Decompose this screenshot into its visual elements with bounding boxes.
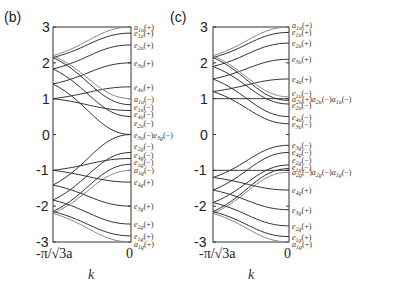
state-label: e2g(+) [134, 220, 154, 230]
panel-b-curves [53, 27, 131, 242]
band-curve-e4gminus [53, 159, 131, 171]
state-label: a1g(+) [134, 240, 154, 250]
state-label: e2u(−) [292, 101, 312, 111]
band-curve-e1uplus [213, 32, 289, 57]
band-curve-e2gplus [213, 203, 289, 226]
band-structure-figure: (b) 3210-1-2-3 a1u(+)e1u(+)e2u(+)e3u(+)e… [0, 0, 394, 289]
state-label: e4u(+) [292, 75, 312, 85]
panel-b-label: (b) [4, 9, 21, 25]
band-curve-e2uplus [53, 45, 131, 69]
band-curve-a1gplus [53, 213, 131, 242]
y-tick-label: 3 [200, 19, 208, 35]
band-curve-e3gminus [213, 145, 289, 177]
y-tick-label: -2 [194, 198, 207, 214]
state-label: e2u(+) [134, 41, 154, 51]
state-label: e3u(−) [292, 120, 312, 130]
band-curve-e3uplus [213, 59, 289, 79]
panel-b-y-ticks: 3210-1-2-3 [36, 19, 131, 250]
y-tick-label: 3 [42, 19, 50, 35]
state-label: e3u(+) [292, 55, 312, 65]
state-label: a1g(−) [134, 166, 154, 176]
band-curve-e3gplus [213, 190, 289, 210]
band-curve-a1uplus [53, 27, 131, 56]
band-curve-e2gminus [53, 152, 131, 200]
panel-c-plot-frame [213, 27, 289, 242]
panel-c-xtick-left: -π/√3a [199, 246, 236, 261]
band-curve-a1uminus [53, 56, 131, 99]
band-curve-a1uplus [213, 27, 289, 56]
state-label: a1g(+) [292, 240, 312, 250]
state-label: e2u(−) [134, 119, 154, 129]
band-curve-e2uplus [213, 43, 289, 66]
y-tick-label: 0 [200, 127, 208, 143]
state-label: e4g(+) [134, 178, 154, 188]
panel-c-label: (c) [170, 9, 186, 25]
band-curve-a1gplus [213, 213, 289, 242]
band-curve-e3uminus [213, 92, 289, 124]
panel-c-curves [213, 27, 289, 242]
state-label: e4g(+) [292, 186, 312, 196]
panel-c-state-labels: a1u(+)e1u(+)e2u(+)e3u(+)e4u(+)e1u(−)a2u(… [292, 21, 352, 250]
band-curve-e4uminus [53, 99, 131, 111]
state-label: e1u(+) [134, 29, 154, 39]
panel-b-state-labels: a1u(+)e1u(+)e2u(+)e3u(+)e4u(+)a1u(−)e1u(… [134, 23, 173, 250]
panel-b-xtick-right: 0 [126, 246, 133, 261]
band-curve-e2gplus [53, 200, 131, 224]
state-label: e3g(+) [134, 202, 154, 212]
band-curve-e1gplus [213, 212, 289, 237]
band-curve-a1gminus [53, 170, 131, 213]
panel-b-x-axis-label: k [88, 267, 95, 282]
y-tick-label: -1 [194, 162, 207, 178]
state-label: e1u(+) [292, 28, 312, 38]
panel-b-plot-frame [53, 27, 131, 242]
y-tick-label: 2 [42, 55, 50, 71]
y-tick-label: -2 [36, 198, 49, 214]
state-label: e2u(+) [292, 39, 312, 49]
panel-b-xtick-left: -π/√3a [36, 246, 73, 261]
panel-c: (c) 3210-1-2-3 a1u(+)e1u(+)e2u(+)e3u(+)e… [170, 9, 352, 282]
state-label: e4u(+) [134, 83, 154, 93]
y-tick-label: 1 [42, 91, 50, 107]
state-label: e3u(−)e3g(−) [134, 131, 173, 141]
y-tick-label: 0 [42, 127, 50, 143]
state-label: e3u(+) [134, 59, 154, 69]
state-label: e3g(+) [292, 206, 312, 216]
panel-c-y-ticks: 3210-1-2-3 [194, 19, 289, 250]
panel-c-x-axis-label: k [248, 267, 255, 282]
state-label: e2g(+) [292, 222, 312, 232]
y-tick-label: -1 [36, 162, 49, 178]
panel-b: (b) 3210-1-2-3 a1u(+)e1u(+)e2u(+)e3u(+)e… [4, 9, 173, 282]
band-curve-e2uminus [53, 69, 131, 117]
panel-c-xtick-right: 0 [284, 246, 291, 261]
y-tick-label: 2 [200, 55, 208, 71]
y-tick-label: 1 [200, 91, 208, 107]
